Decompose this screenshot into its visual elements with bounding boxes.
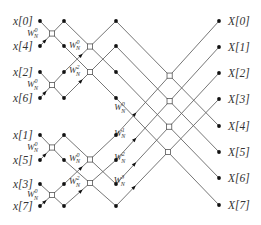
butterfly-adder-node — [165, 149, 170, 154]
node-dot — [114, 96, 118, 100]
node-dot — [38, 19, 42, 23]
twiddle-factor-label: W1N — [114, 127, 126, 140]
node-dot — [217, 71, 221, 75]
node-dot — [38, 96, 42, 100]
input-label: x[4] — [12, 40, 33, 52]
node-dot — [217, 176, 221, 180]
butterfly-adder-node — [167, 73, 172, 78]
node-dot — [114, 70, 118, 74]
node-dot — [114, 44, 118, 48]
butterfly-adder-node — [87, 44, 92, 49]
butterfly-adder-node — [87, 157, 92, 162]
node-dot — [217, 19, 221, 23]
twiddle-factor-label: W0N — [69, 152, 81, 165]
node-dot — [62, 133, 66, 137]
node-dot — [38, 182, 42, 186]
twiddle-factor-label: W0N — [114, 101, 126, 114]
node-dot — [114, 19, 118, 23]
twiddle-factor-label: W0N — [27, 188, 39, 201]
twiddle-factor-label: W2N — [69, 64, 81, 77]
input-label: x[1] — [12, 129, 33, 141]
twiddle-factor-label: W0N — [69, 39, 81, 52]
node-dot — [62, 19, 66, 23]
input-label: x[5] — [12, 154, 33, 166]
butterfly-adder-node — [167, 124, 172, 129]
node-dot — [62, 204, 66, 208]
output-label: X[2] — [227, 67, 250, 79]
butterfly-adder-node — [49, 192, 54, 197]
input-label: x[2] — [12, 66, 33, 78]
twiddle-factor-label: W0N — [27, 27, 39, 40]
butterfly-adder-node — [167, 99, 172, 104]
butterfly-adder-node — [49, 31, 54, 36]
output-label: X[7] — [227, 199, 250, 211]
butterfly-adder-node — [49, 145, 54, 150]
node-dot — [217, 45, 221, 49]
output-label: X[4] — [227, 120, 250, 132]
input-label: x[6] — [12, 92, 33, 104]
node-dot — [217, 203, 221, 207]
node-dot — [38, 70, 42, 74]
node-dot — [114, 204, 118, 208]
node-dot — [114, 182, 118, 186]
node-dot — [38, 44, 42, 48]
butterfly-adder-node — [49, 82, 54, 87]
node-dot — [217, 124, 221, 128]
twiddle-factor-label: W2N — [69, 175, 81, 188]
twiddle-factor-label: W0N — [27, 78, 39, 91]
fft-butterfly-diagram: x[0]x[4]x[2]x[6]x[1]x[5]x[3]x[7]X[0]X[1]… — [0, 0, 261, 225]
node-dot — [62, 44, 66, 48]
node-dot — [217, 150, 221, 154]
butterfly-adder-node — [87, 180, 92, 185]
node-dot — [38, 158, 42, 162]
node-dot — [38, 133, 42, 137]
node-dot — [62, 182, 66, 186]
node-dot — [62, 70, 66, 74]
node-dot — [62, 96, 66, 100]
twiddle-factor-label: W0N — [27, 141, 39, 154]
output-label: X[0] — [227, 15, 250, 27]
node-dot — [217, 97, 221, 101]
node-dot — [114, 158, 118, 162]
output-label: X[6] — [227, 172, 250, 184]
output-label: X[1] — [227, 41, 250, 53]
output-label: X[5] — [227, 146, 250, 158]
node-dot — [62, 158, 66, 162]
output-label: X[3] — [227, 93, 250, 105]
node-dot — [114, 133, 118, 137]
node-dot — [38, 204, 42, 208]
input-label: x[0] — [12, 15, 33, 27]
butterfly-adder-node — [87, 69, 92, 74]
input-label: x[7] — [12, 200, 33, 212]
